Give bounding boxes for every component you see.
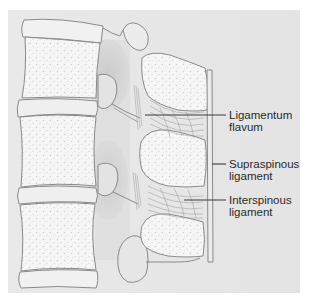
spinous-processes bbox=[140, 53, 208, 257]
diagram-canvas bbox=[0, 0, 309, 305]
spine-ligament-diagram: Ligamentum flavum Supraspinous ligament … bbox=[0, 0, 309, 305]
label-line-1: Interspinous bbox=[229, 194, 292, 206]
label-ligamentum-flavum: Ligamentum flavum bbox=[229, 109, 292, 133]
label-line-2: ligament bbox=[229, 170, 299, 182]
supraspinous-ligament-band bbox=[207, 70, 213, 262]
label-line-1: Ligamentum bbox=[229, 109, 292, 121]
label-supraspinous-ligament: Supraspinous ligament bbox=[229, 158, 299, 182]
label-interspinous-ligament: Interspinous ligament bbox=[229, 194, 292, 218]
vertebral-bodies bbox=[17, 19, 103, 288]
label-line-1: Supraspinous bbox=[229, 158, 299, 170]
label-line-2: flavum bbox=[229, 121, 292, 133]
label-line-2: ligament bbox=[229, 206, 292, 218]
